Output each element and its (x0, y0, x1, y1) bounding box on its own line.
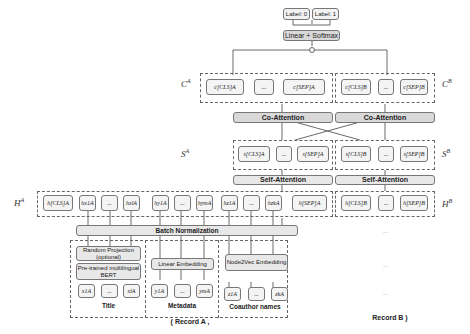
s-cls-b-token: s[CLS]B (341, 146, 371, 162)
self-attention-b: Self-Attention (335, 175, 435, 185)
record-b-caption: Record B ) (365, 314, 415, 321)
title-token-xl: xlA (123, 284, 140, 298)
title-caption: Title (76, 302, 141, 309)
c-sep-b-token: c[SEP]B (400, 79, 428, 95)
s-b-label: SB (442, 148, 450, 159)
s-ellipsis-b: ... (378, 146, 394, 162)
metadata-caption: Metadata (148, 302, 216, 309)
bert-encoder: Pre-trained multilingual BERT (76, 263, 141, 280)
h-cls-b-token: h[CLS]B (341, 195, 371, 211)
linear-embedding-layer: Linear Embedding (151, 258, 214, 270)
c-ellipsis-b: ... (378, 79, 394, 95)
c-a-label: CA (181, 78, 191, 89)
node2vec-embedding-layer: Node2Vec Embedding (225, 254, 288, 271)
co-attention-b: Co-Attention (335, 112, 435, 123)
metadata-token-ym: ymA (196, 284, 213, 298)
label-1-output: Label: 1 (312, 8, 339, 20)
branch-divider-1 (145, 240, 146, 318)
branch-divider-2 (218, 240, 219, 318)
h-y1-token: hy1A (152, 195, 169, 211)
h-x-ellipsis: ... (101, 195, 118, 211)
s-a-label: SA (181, 148, 189, 159)
random-projection-layer: Random Projection (optional) (76, 246, 141, 261)
h-x1-token: hx1A (79, 195, 96, 211)
metadata-token-ellipsis: ... (174, 284, 191, 298)
h-a-label: HA (14, 197, 24, 208)
c-b-label: CB (442, 78, 452, 89)
record-b-ellipsis-2: ... (383, 262, 388, 268)
record-b-ellipsis-1: ... (383, 228, 388, 234)
batch-normalization-layer: Batch Normalization (76, 225, 298, 236)
s-cls-a-token: s[CLS]A (238, 146, 270, 162)
h-b-label: HB (442, 198, 452, 209)
h-ym-token: hymA (196, 195, 213, 211)
h-ellipsis-b: ... (378, 195, 394, 211)
h-zk-token: hzkA (265, 195, 282, 211)
record-a-caption: ( Record A , (150, 318, 230, 325)
h-z1-token: hz1A (221, 195, 238, 211)
linear-softmax-layer: Linear + Softmax (283, 30, 340, 41)
h-sep-a-token: h[SEP]A (292, 195, 327, 211)
s-sep-b-token: s[SEP]B (400, 146, 428, 162)
coauthor-caption: Coauthor names (220, 303, 290, 310)
coauthor-token-ellipsis: ... (248, 287, 265, 301)
h-y-ellipsis: ... (174, 195, 191, 211)
c-sep-a-token: c[SEP]A (283, 79, 325, 95)
h-sep-b-token: h[SEP]B (400, 195, 428, 211)
h-xl-token: hxlA (123, 195, 140, 211)
c-ellipsis-a: ... (254, 79, 274, 95)
label-0-output: Label: 0 (283, 8, 310, 20)
h-cls-a-token: h[CLS]A (43, 195, 73, 211)
co-attention-a: Co-Attention (233, 112, 333, 123)
title-token-ellipsis: ... (101, 284, 118, 298)
metadata-token-y1: y1A (151, 284, 168, 298)
coauthor-token-zk: zkA (271, 287, 288, 301)
record-b-ellipsis-3: ... (383, 290, 388, 296)
c-cls-b-token: c[CLS]B (341, 79, 371, 95)
self-attention-a: Self-Attention (233, 175, 333, 185)
s-ellipsis-a: ... (276, 146, 292, 162)
coauthor-token-z1: z1A (224, 287, 241, 301)
h-z-ellipsis: ... (243, 195, 260, 211)
s-sep-a-token: s[SEP]A (297, 146, 329, 162)
c-cls-a-token: c[CLS]A (206, 79, 244, 95)
title-token-x1: x1A (78, 284, 95, 298)
